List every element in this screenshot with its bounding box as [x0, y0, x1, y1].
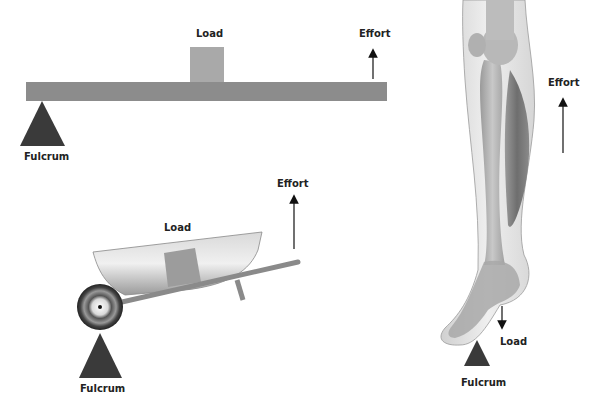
fulcrum-triangle: [79, 333, 122, 378]
fulcrum-triangle: [464, 340, 490, 366]
wheelbarrow-leg: [237, 280, 243, 300]
lever-load-label: Load: [196, 28, 223, 39]
leg-load-label: Load: [500, 336, 527, 347]
wheel-axle: [98, 305, 102, 309]
lever-effort-label: Effort: [359, 28, 391, 39]
simple-lever: [20, 47, 387, 146]
wheelbarrow-load-box: [164, 248, 201, 287]
leg-effort-label: Effort: [548, 77, 580, 88]
fulcrum-triangle: [20, 101, 65, 146]
leg-fulcrum-label: Fulcrum: [461, 377, 506, 388]
wheelbarrow-fulcrum-label: Fulcrum: [80, 383, 125, 394]
wheelbarrow-effort-label: Effort: [277, 178, 309, 189]
lever-fulcrum-label: Fulcrum: [24, 151, 69, 162]
wheelbarrow-load-label: Load: [164, 222, 191, 233]
lever-diagrams: [0, 0, 597, 409]
patella: [468, 33, 486, 57]
lower-leg: [441, 0, 563, 366]
load-box: [190, 47, 224, 82]
femur-shaft: [486, 0, 514, 40]
lever-beam: [26, 82, 387, 101]
